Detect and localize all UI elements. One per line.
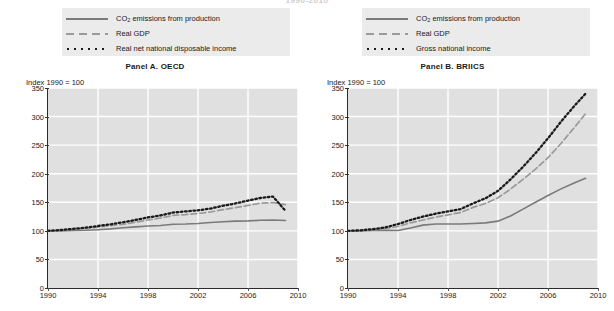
panel-briics: CO2 emissions from production Real GDP G… [307,0,614,311]
y-tick-label: 100 [18,227,44,236]
x-tick-mark [498,288,499,291]
x-tick-label: 1994 [83,291,113,300]
y-tick-mark [345,202,349,203]
y-tick-mark [345,259,349,260]
y-tick-mark [45,145,49,146]
y-tick-label: 200 [18,170,44,179]
legend-item[interactable]: Real GDP [366,27,584,40]
y-tick-mark [345,231,349,232]
panel-title: Panel B. BRIICS [299,62,606,71]
x-tick-label: 1994 [383,291,413,300]
line-solid-icon [66,14,108,23]
x-tick-mark [398,288,399,291]
y-tick-label: 100 [318,227,344,236]
x-axis-line [47,288,298,289]
gridlines [348,88,598,288]
line-solid-icon [366,14,408,23]
x-tick-mark [448,288,449,291]
y-tick-label: 250 [18,141,44,150]
legend-item[interactable]: Gross national income [366,42,584,55]
legend-item-label: Real net national disposable income [116,44,237,53]
x-axis-line [347,288,598,289]
x-tick-mark [248,288,249,291]
x-tick-mark [198,288,199,291]
x-tick-label: 2002 [183,291,213,300]
x-tick-label: 1998 [433,291,463,300]
y-tick-label: 250 [318,141,344,150]
y-tick-mark [45,231,49,232]
plot-area-oecd [48,88,298,288]
panel-title: Panel A. OECD [0,62,310,71]
legend-item[interactable]: Real GDP [66,27,284,40]
y-tick-label: 300 [18,113,44,122]
x-tick-mark [298,288,299,291]
y-tick-mark [45,117,49,118]
y-tick-label: 350 [18,84,44,93]
line-dashed-icon [66,29,108,38]
y-tick-label: 300 [318,113,344,122]
x-tick-mark [98,288,99,291]
legend-item-label: CO2 emissions from production [416,14,520,24]
line-dashed-icon [366,29,408,38]
legend-item[interactable]: CO2 emissions from production [66,12,284,25]
legend-item[interactable]: CO2 emissions from production [366,12,584,25]
panel-oecd: CO2 emissions from production Real GDP R… [0,0,310,311]
legend-panel-b: CO2 emissions from production Real GDP G… [362,8,590,56]
y-tick-mark [45,174,49,175]
line-dotted-icon [66,44,108,53]
gridlines [48,88,298,288]
x-tick-label: 1990 [33,291,63,300]
line-dotted-icon [366,44,408,53]
legend-item-label: Real GDP [116,29,150,38]
x-tick-mark [48,288,49,291]
y-tick-mark [345,88,349,89]
legend-panel-a: CO2 emissions from production Real GDP R… [62,8,290,56]
y-tick-label: 150 [318,198,344,207]
x-tick-mark [148,288,149,291]
plot-area-briics [348,88,598,288]
y-tick-label: 200 [318,170,344,179]
legend-item-label: Real GDP [416,29,450,38]
y-tick-mark [345,145,349,146]
x-tick-label: 1990 [333,291,363,300]
y-tick-label: 50 [18,255,44,264]
y-tick-label: 150 [18,198,44,207]
legend-item[interactable]: Real net national disposable income [66,42,284,55]
x-tick-mark [348,288,349,291]
plot-svg [348,88,598,288]
y-tick-label: 50 [318,255,344,264]
y-tick-mark [345,174,349,175]
plot-svg [48,88,298,288]
y-tick-mark [45,202,49,203]
series-lines [348,94,586,231]
y-tick-mark [45,259,49,260]
x-tick-mark [598,288,599,291]
y-tick-label: 350 [318,84,344,93]
x-tick-mark [548,288,549,291]
y-tick-mark [345,117,349,118]
x-tick-label: 2002 [483,291,513,300]
legend-item-label: Gross national income [416,44,491,53]
legend-item-label: CO2 emissions from production [116,14,220,24]
x-tick-label: 2006 [233,291,263,300]
x-tick-label: 1998 [133,291,163,300]
figure-container: 1990-2010 CO2 emissions from production … [0,0,614,311]
x-tick-label: 2010 [583,291,613,300]
y-tick-mark [45,88,49,89]
x-tick-label: 2006 [533,291,563,300]
